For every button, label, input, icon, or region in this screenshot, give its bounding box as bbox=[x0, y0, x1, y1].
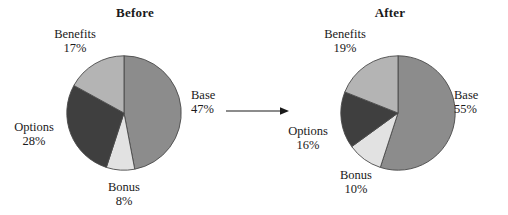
slice-value: 8% bbox=[84, 195, 164, 209]
pie-slice-base bbox=[124, 56, 181, 169]
slice-label-before-benefits: Benefits 17% bbox=[30, 28, 120, 55]
slice-name: Options bbox=[272, 125, 344, 139]
slice-value: 10% bbox=[316, 183, 396, 197]
slice-label-after-benefits: Benefits 19% bbox=[300, 28, 390, 55]
slice-label-after-bonus: Bonus 10% bbox=[316, 169, 396, 196]
figure-canvas: Before Benefits 17% Base 47% Bonus 8% Op… bbox=[0, 0, 508, 215]
slice-name: Benefits bbox=[300, 28, 390, 42]
slice-value: 17% bbox=[30, 42, 120, 56]
slice-value: 19% bbox=[300, 42, 390, 56]
slice-label-after-base: Base 55% bbox=[454, 89, 508, 116]
right-arrow-icon bbox=[226, 102, 290, 120]
slice-label-after-options: Options 16% bbox=[272, 125, 344, 152]
pie-before-svg bbox=[66, 55, 182, 171]
slice-label-before-bonus: Bonus 8% bbox=[84, 181, 164, 208]
slice-name: Options bbox=[0, 121, 70, 135]
pie-chart-after bbox=[340, 55, 456, 171]
slice-value: 55% bbox=[454, 103, 508, 117]
slice-label-before-options: Options 28% bbox=[0, 121, 70, 148]
slice-name: Bonus bbox=[316, 169, 396, 183]
chart-title-before: Before bbox=[85, 6, 185, 20]
pie-chart-before bbox=[66, 55, 182, 171]
slice-name: Base bbox=[454, 89, 508, 103]
pie-after-svg bbox=[340, 55, 456, 171]
slice-value: 16% bbox=[272, 139, 344, 153]
slice-value: 28% bbox=[0, 135, 70, 149]
slice-name: Base bbox=[191, 89, 251, 103]
slice-name: Benefits bbox=[30, 28, 120, 42]
chart-title-after: After bbox=[340, 6, 440, 20]
slice-name: Bonus bbox=[84, 181, 164, 195]
